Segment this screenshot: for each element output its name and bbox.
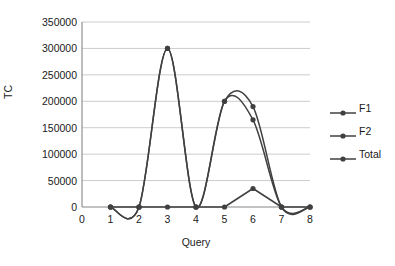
legend-item-total[interactable]: Total [330, 149, 381, 160]
y-tick-label: 0 [5, 202, 77, 213]
x-tick-label: 5 [210, 214, 240, 225]
y-tick-label: 50000 [5, 175, 77, 186]
x-tick-label: 6 [238, 214, 268, 225]
data-point [222, 99, 227, 104]
legend-item-f1[interactable]: F1 [330, 103, 381, 114]
y-tick-label: 350000 [5, 17, 77, 28]
data-point [193, 204, 198, 209]
x-tick-label: 0 [67, 214, 97, 225]
y-tick-label: 200000 [5, 96, 77, 107]
chart-legend: F1F2Total [330, 103, 381, 160]
series-f1 [108, 46, 313, 219]
data-point [250, 186, 255, 191]
legend-label: F1 [359, 103, 371, 114]
y-tick-label: 150000 [5, 122, 77, 133]
y-tick-label: 250000 [5, 70, 77, 81]
data-point [165, 46, 170, 51]
data-point [222, 204, 227, 209]
y-tick-label: 100000 [5, 149, 77, 160]
data-point [307, 204, 312, 209]
legend-label: Total [359, 149, 381, 160]
data-point [136, 204, 141, 209]
series-total [108, 46, 313, 219]
data-point [250, 104, 255, 109]
x-axis-title: Query [82, 236, 310, 248]
series-lines [82, 22, 310, 207]
data-point [279, 204, 284, 209]
legend-marker-icon [330, 104, 356, 114]
legend-label: F2 [359, 126, 371, 137]
x-tick-label: 4 [181, 214, 211, 225]
legend-marker-icon [330, 127, 356, 137]
x-tick-label: 8 [295, 214, 325, 225]
plot-area [82, 22, 310, 207]
data-point [250, 117, 255, 122]
legend-marker-icon [330, 150, 356, 160]
legend-item-f2[interactable]: F2 [330, 126, 381, 137]
y-axis-title: TC [2, 85, 14, 99]
data-point [165, 204, 170, 209]
data-point [108, 204, 113, 209]
x-tick-label: 7 [267, 214, 297, 225]
x-tick-label: 3 [153, 214, 183, 225]
chart-screenshot: 0500001000001500002000002500003000003500… [0, 0, 395, 266]
y-tick-label: 300000 [5, 43, 77, 54]
